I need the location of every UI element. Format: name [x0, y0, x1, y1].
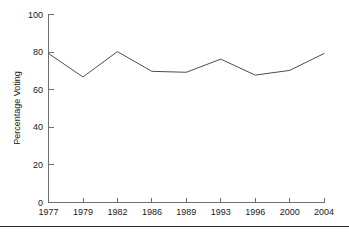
- x-tick-label-1996: 1996: [245, 207, 265, 217]
- chart-figure: Percentage Voting 100 80 60 40 20 0 1977…: [0, 0, 349, 233]
- y-tick-label-60: 60: [33, 85, 43, 95]
- x-tick-label-1977: 1977: [38, 207, 58, 217]
- x-tick-label-1989: 1989: [176, 207, 196, 217]
- x-tick-label-1979: 1979: [73, 207, 93, 217]
- x-tick-label-2000: 2000: [280, 207, 300, 217]
- y-tick-label-20: 20: [33, 160, 43, 170]
- y-tick-label-40: 40: [33, 122, 43, 132]
- y-tick-label-80: 80: [33, 47, 43, 57]
- y-axis-title: Percentage Voting: [12, 71, 22, 145]
- line-chart-canvas: Percentage Voting 100 80 60 40 20 0 1977…: [0, 0, 349, 233]
- x-tick-label-1982: 1982: [107, 207, 127, 217]
- y-tick-label-0: 0: [38, 198, 43, 208]
- x-tick-label-1993: 1993: [211, 207, 231, 217]
- x-tick-label-1986: 1986: [142, 207, 162, 217]
- x-tick-label-2004: 2004: [314, 207, 334, 217]
- data-series-line: [49, 52, 325, 77]
- y-tick-label-100: 100: [28, 10, 43, 20]
